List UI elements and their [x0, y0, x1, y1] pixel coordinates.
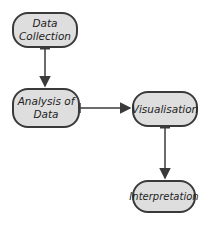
- node-visualisation: Visualisation: [132, 91, 198, 127]
- edge-analysis-to-visualisation: [80, 103, 130, 113]
- node-data-collection: Data Collection: [12, 12, 78, 48]
- node-label-line: Collection: [19, 30, 71, 43]
- node-analysis-of-data: Analysis of Data: [12, 88, 80, 128]
- node-label: Visualisation: [132, 103, 199, 116]
- node-label-line: Analysis of: [18, 95, 75, 108]
- edge-collection-to-analysis: [40, 48, 50, 86]
- node-label-line: Data: [18, 108, 75, 121]
- node-label-line: Data: [19, 17, 71, 30]
- edge-visualisation-to-interpretation: [160, 127, 170, 178]
- node-interpretation: Interpretation: [132, 180, 196, 213]
- node-label: Interpretation: [129, 190, 198, 203]
